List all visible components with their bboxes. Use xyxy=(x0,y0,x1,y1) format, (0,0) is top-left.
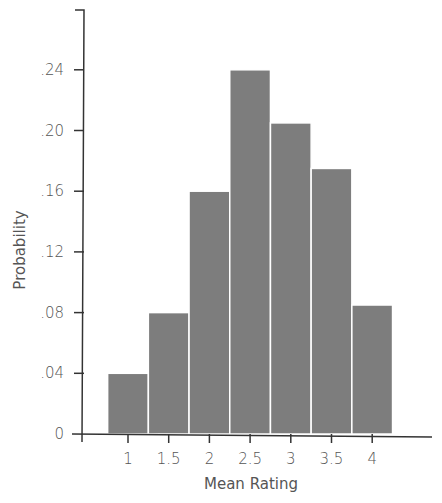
x-tick-label: 3.5 xyxy=(320,450,344,468)
bar-1 xyxy=(108,373,149,434)
x-tick-label: 2.5 xyxy=(238,450,262,468)
bar-3 xyxy=(270,123,311,434)
bar-3.5 xyxy=(311,168,352,434)
x-tick-label: 2 xyxy=(205,450,215,468)
y-tick-label: .08 xyxy=(40,304,64,322)
histogram-chart: 0.04.08.12.16.20.24 11.522.533.54 Probab… xyxy=(0,0,442,503)
bar-2 xyxy=(189,191,230,434)
bars-group xyxy=(108,70,393,434)
x-tick-label: 3 xyxy=(286,450,296,468)
y-tick-label: .04 xyxy=(40,364,64,382)
y-tick-label: .20 xyxy=(40,122,64,140)
bar-4 xyxy=(352,305,393,434)
y-tick-label: 0 xyxy=(54,425,64,443)
y-axis: 0.04.08.12.16.20.24 xyxy=(40,10,84,443)
x-axis: 11.522.533.54 xyxy=(72,434,432,468)
y-axis-title: Probability xyxy=(11,210,29,289)
bar-1.5 xyxy=(148,313,189,434)
y-tick-label: .16 xyxy=(40,182,64,200)
x-axis-title: Mean Rating xyxy=(204,475,298,493)
x-tick-label: 1.5 xyxy=(157,450,181,468)
y-tick-label: .24 xyxy=(40,61,64,79)
x-tick-label: 1 xyxy=(123,450,133,468)
x-tick-label: 4 xyxy=(367,450,377,468)
bar-2.5 xyxy=(230,70,271,434)
y-tick-label: .12 xyxy=(40,243,64,261)
y-axis-line xyxy=(75,10,84,442)
